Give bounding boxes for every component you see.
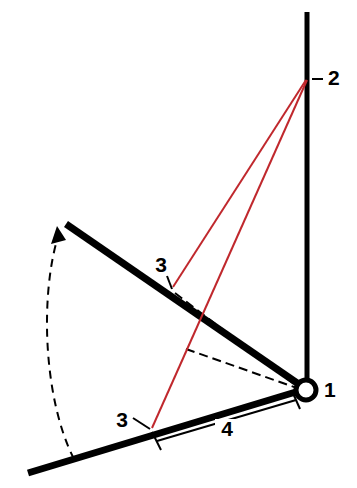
diagram-background	[0, 0, 357, 488]
pivot-joint	[296, 380, 316, 400]
label-post-top-2: 2	[328, 66, 340, 89]
label-dimension-4: 4	[221, 417, 233, 440]
mechanism-diagram: 1 2 3 3 4	[0, 0, 357, 488]
label-attach-lower-3: 3	[116, 408, 128, 431]
diagram-canvas: 1 2 3 3 4	[0, 0, 357, 488]
label-attach-upper-3: 3	[155, 253, 167, 276]
label-pivot-1: 1	[324, 378, 336, 401]
